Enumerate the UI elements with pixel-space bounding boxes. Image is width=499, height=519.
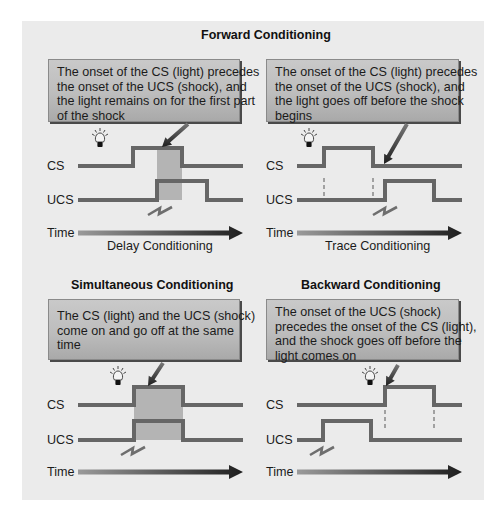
shock-lightning-icon xyxy=(310,447,334,455)
shock-lightning-icon xyxy=(148,207,172,215)
shock-lightning-icon xyxy=(373,207,397,215)
light-bulb-icon xyxy=(362,366,378,385)
ucs-signal-line xyxy=(297,421,462,440)
time-axis-arrow xyxy=(297,226,462,240)
cs-signal-line xyxy=(297,387,462,405)
callout-pointer-arrow xyxy=(384,123,409,164)
cs-signal-line xyxy=(297,148,462,166)
overlap-shaded-region xyxy=(134,387,183,440)
ucs-signal-line xyxy=(297,181,462,200)
conditioning-timing-diagram xyxy=(0,0,499,519)
callout-pointer-arrow xyxy=(386,364,400,386)
light-bulb-icon xyxy=(92,128,108,147)
callout-pointer-arrow xyxy=(148,362,165,386)
time-axis-arrow xyxy=(297,465,462,479)
callout-pointer-arrow xyxy=(162,123,189,147)
light-bulb-icon xyxy=(301,128,317,147)
time-axis-arrow xyxy=(78,465,243,479)
overlap-shaded-region xyxy=(157,148,182,200)
shock-lightning-icon xyxy=(121,447,145,455)
light-bulb-icon xyxy=(110,366,126,385)
time-axis-arrow xyxy=(78,226,243,240)
